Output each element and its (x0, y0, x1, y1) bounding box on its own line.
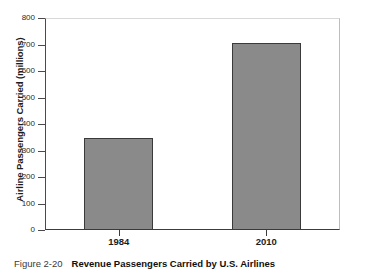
y-axis-tick: 200 (38, 177, 45, 178)
y-axis-tick-label: 100 (22, 199, 35, 208)
y-axis-tick-label: 300 (22, 146, 35, 155)
y-axis-tick-label: 200 (22, 172, 35, 181)
y-axis-tick-label: 700 (22, 40, 35, 49)
y-axis-tick-label: 0 (31, 225, 35, 234)
y-axis-tick-label: 400 (22, 119, 35, 128)
y-axis-tick: 300 (38, 151, 45, 152)
x-axis-label-2010: 2010 (256, 236, 277, 247)
figure-caption: Figure 2-20Revenue Passengers Carried by… (14, 258, 364, 269)
caption-figure-number: Figure 2-20 (14, 258, 63, 269)
y-axis-tick: 100 (38, 204, 45, 205)
y-axis-tick-label: 800 (22, 13, 35, 22)
x-axis-label-1984: 1984 (108, 236, 129, 247)
figure-container: Airline Passengers Carried (millions) 01… (0, 0, 378, 273)
y-axis-tick: 600 (38, 71, 45, 72)
bar-1984 (84, 138, 153, 230)
y-axis-tick: 400 (38, 124, 45, 125)
bar-2010 (232, 43, 301, 230)
y-axis-tick: 0 (38, 230, 45, 231)
y-axis-tick: 700 (38, 45, 45, 46)
y-axis-tick: 500 (38, 98, 45, 99)
y-axis-tick-label: 500 (22, 93, 35, 102)
y-axis-tick: 800 (38, 18, 45, 19)
caption-figure-title: Revenue Passengers Carried by U.S. Airli… (72, 258, 275, 269)
y-axis-tick-label: 600 (22, 66, 35, 75)
